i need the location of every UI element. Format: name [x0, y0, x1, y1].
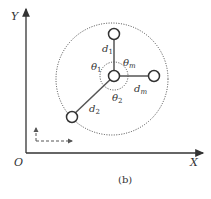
- diagram: Y X O d1 dm d2 θ1 θm θ2 (b): [0, 0, 211, 199]
- label-thetam: θm: [123, 57, 136, 70]
- node-right: [149, 71, 160, 82]
- label-theta1: θ1: [91, 61, 102, 74]
- node-lower-left: [67, 112, 78, 123]
- label-theta2: θ2: [112, 92, 123, 105]
- label-dm: dm: [134, 83, 147, 96]
- figure-caption: (b): [118, 174, 132, 185]
- label-d1: d1: [102, 43, 113, 56]
- x-axis-label: X: [189, 156, 199, 169]
- node-center: [109, 71, 120, 82]
- y-axis-label: Y: [11, 10, 20, 23]
- label-d2: d2: [89, 103, 100, 116]
- node-top: [109, 29, 120, 40]
- origin-label: O: [14, 156, 23, 169]
